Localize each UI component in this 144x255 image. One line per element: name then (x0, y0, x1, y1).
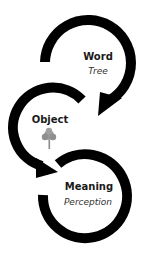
object-title: Object (28, 114, 72, 125)
loop-arrows (0, 0, 144, 255)
word-title: Word (78, 51, 118, 62)
word-subtitle: Tree (78, 66, 118, 76)
diagram-canvas: Word Tree Object Meaning Perception (0, 0, 144, 255)
tree-icon (42, 128, 56, 149)
meaning-subtitle: Perception (60, 197, 116, 207)
meaning-title: Meaning (64, 181, 114, 192)
